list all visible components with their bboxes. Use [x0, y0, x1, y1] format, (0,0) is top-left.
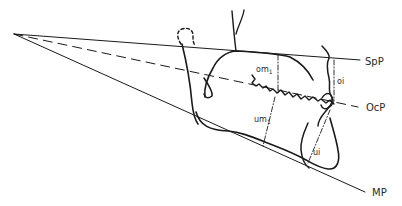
- mp-plane-line: [14, 34, 365, 192]
- om1-label-sub: 1: [269, 68, 273, 75]
- oi-label: oi: [337, 77, 344, 87]
- pterygoid-line-1: [232, 11, 236, 51]
- om1-label: om1: [256, 65, 273, 77]
- um1-label-base: um: [254, 115, 267, 124]
- occlusion-zigzag: [252, 75, 334, 104]
- mp-label: MP: [372, 188, 387, 198]
- ui-label-base: ui: [313, 148, 320, 157]
- om1-label-base: om: [256, 65, 269, 74]
- ui-label: ui: [313, 148, 320, 158]
- pterygoid-line-2: [236, 10, 244, 34]
- ocp-label: OcP: [366, 103, 385, 113]
- oi-label-base: oi: [337, 77, 344, 86]
- um1-label-sub: 1: [267, 118, 271, 125]
- cephalometric-diagram: [0, 0, 402, 206]
- condyle-outline: [178, 28, 196, 46]
- um1-label: um1: [254, 115, 271, 127]
- spp-label: SpP: [365, 57, 384, 67]
- spp-plane-line: [14, 34, 360, 60]
